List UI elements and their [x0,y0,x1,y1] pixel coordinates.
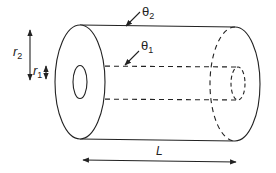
theta1-leader-arrow [125,51,139,65]
length-label: L [156,144,163,158]
theta1-label: θ1 [141,38,153,55]
back-inner-rim-hidden [231,67,245,100]
outer-bottom-edge [80,139,235,141]
inner-top-edge-hidden [87,66,240,67]
outer-top-edge [80,25,235,27]
r2-label: r2 [13,44,22,61]
back-outer-rim-solid [235,27,260,141]
hollow-cylinder-diagram: θ2 θ1 r2 r1 L [0,0,276,173]
inner-bottom-edge-hidden [87,99,240,100]
front-outer-rim [55,25,105,139]
r1-label: r1 [33,63,42,80]
theta2-label: θ2 [142,4,154,21]
length-dimension-arrow [83,160,236,162]
theta2-leader-arrow [126,12,140,26]
